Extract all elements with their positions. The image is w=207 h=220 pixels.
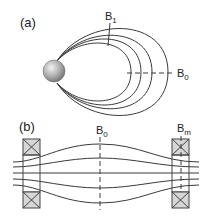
planet-sphere — [43, 60, 65, 82]
panel-a-label: (a) — [20, 15, 36, 30]
field-line-4 — [57, 29, 168, 116]
bm-label: Bm — [177, 122, 191, 137]
b1-marker-line — [108, 23, 110, 46]
mirror-line-2 — [13, 158, 199, 167]
b1-label: B1 — [105, 10, 117, 25]
panel-b-label: (b) — [19, 119, 35, 134]
panel-b: (b) B0 — [13, 119, 199, 210]
mirror-line-1 — [13, 144, 199, 162]
b0-label-a: B0 — [177, 67, 189, 82]
mirror-line-4 — [13, 179, 199, 188]
field-line-1 — [57, 43, 131, 101]
panel-a: (a) B1 B0 — [20, 10, 189, 115]
magnetic-field-diagram: (a) B1 B0 (b) — [0, 0, 207, 220]
b0-label-b: B0 — [96, 124, 108, 139]
dipole-field-lines — [57, 29, 168, 116]
field-line-3 — [57, 35, 152, 109]
mirror-field-lines — [13, 144, 199, 203]
